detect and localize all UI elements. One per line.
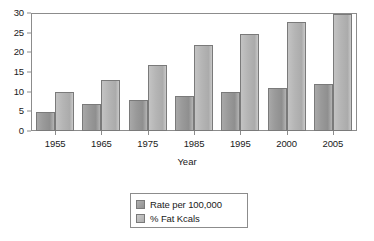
bar-chart-figure: 051015202530 195519651975198519952000200… — [0, 0, 374, 241]
bar-group — [36, 14, 74, 131]
x-axis-tick-mark — [287, 131, 288, 135]
bar-group — [268, 14, 306, 131]
y-axis-tick: 30 — [0, 8, 31, 18]
y-axis-tick-mark — [27, 13, 31, 14]
bar-group — [221, 14, 259, 131]
bar-group — [175, 14, 213, 131]
bar — [148, 65, 167, 131]
x-axis-tick-label: 1975 — [137, 138, 158, 149]
legend-swatch-icon-0 — [136, 200, 145, 209]
x-axis: 1955196519751985199520002005 — [32, 131, 357, 153]
bar — [129, 100, 148, 131]
x-axis-title: Year — [0, 156, 374, 167]
y-axis-tick: 20 — [0, 47, 31, 57]
x-axis-tick-label: 1995 — [230, 138, 251, 149]
bar-group — [129, 14, 167, 131]
y-axis-tick-label: 10 — [14, 87, 24, 97]
y-axis-tick: 10 — [0, 87, 31, 97]
bar — [268, 88, 287, 131]
chart-legend: Rate per 100,000 % Fat Kcals — [130, 193, 248, 228]
x-axis-tick-mark — [55, 131, 56, 135]
legend-swatch-icon-1 — [136, 214, 145, 223]
legend-item-1: % Fat Kcals — [136, 211, 243, 225]
y-axis-tick-label: 20 — [14, 47, 24, 57]
y-axis-tick: 5 — [0, 106, 31, 116]
bar — [314, 84, 333, 131]
y-axis-tick-label: 25 — [14, 28, 24, 38]
x-axis-tick-label: 1955 — [45, 138, 66, 149]
x-axis-tick-label: 1965 — [91, 138, 112, 149]
legend-label-1: % Fat Kcals — [150, 213, 200, 224]
bar — [55, 92, 74, 131]
y-axis-tick: 0 — [0, 126, 31, 136]
y-axis: 051015202530 — [0, 13, 31, 132]
bar — [287, 22, 306, 131]
y-axis-tick-mark — [27, 131, 31, 132]
bar — [333, 14, 352, 131]
x-axis-tick-mark — [333, 131, 334, 135]
x-axis-tick-mark — [101, 131, 102, 135]
x-axis-tick-label: 2000 — [276, 138, 297, 149]
x-axis-tick-mark — [194, 131, 195, 135]
y-axis-tick-label: 30 — [14, 8, 24, 18]
bar — [82, 104, 101, 131]
y-axis-tick-mark — [27, 52, 31, 53]
x-axis-tick-mark — [148, 131, 149, 135]
bar — [175, 96, 194, 131]
x-axis-tick-label: 1985 — [184, 138, 205, 149]
y-axis-tick-mark — [27, 32, 31, 33]
bar — [36, 112, 55, 132]
bar — [221, 92, 240, 131]
y-axis-tick: 25 — [0, 28, 31, 38]
y-axis-tick-label: 5 — [19, 106, 24, 116]
x-axis-tick-label: 2005 — [322, 138, 343, 149]
bar-group — [314, 14, 352, 131]
y-axis-tick-label: 15 — [14, 67, 24, 77]
bar — [240, 34, 259, 132]
x-axis-tick-mark — [240, 131, 241, 135]
y-axis-tick-mark — [27, 111, 31, 112]
bar — [101, 80, 120, 131]
bar — [194, 45, 213, 131]
y-axis-tick: 15 — [0, 67, 31, 77]
y-axis-tick-mark — [27, 72, 31, 73]
bar-group — [82, 14, 120, 131]
y-axis-tick-mark — [27, 91, 31, 92]
bars-layer — [32, 14, 356, 131]
y-axis-tick-label: 0 — [19, 126, 24, 136]
legend-item-0: Rate per 100,000 — [136, 197, 243, 211]
legend-label-0: Rate per 100,000 — [150, 199, 222, 210]
